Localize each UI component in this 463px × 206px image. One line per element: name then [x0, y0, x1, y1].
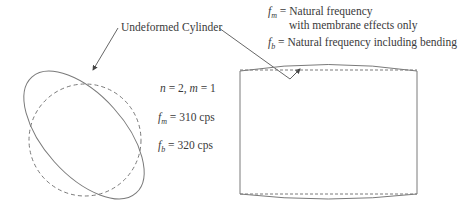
m-symbol: m — [190, 82, 198, 94]
undeformed-cross-section-circle — [29, 84, 141, 196]
subscript: b — [271, 42, 275, 51]
callout-leader-left — [93, 28, 118, 70]
separator: , — [184, 82, 187, 94]
mode-numbers-label: n = 2, m = 1 — [160, 83, 216, 95]
membrane-frequency-value: fm = 310 cps — [158, 112, 215, 124]
frequency-value: 320 cps — [177, 139, 212, 151]
deformed-longitudinal-outline — [240, 65, 417, 200]
subscript: b — [161, 145, 165, 154]
frequency-value: 310 cps — [179, 111, 214, 123]
legend-text: Natural frequency including bending — [287, 36, 457, 48]
legend-membrane: fm = Natural frequency — [268, 6, 373, 18]
undeformed-cylinder-label: Undeformed Cylinder — [121, 22, 222, 34]
bending-frequency-value: fb = 320 cps — [158, 140, 213, 152]
subscript: m — [271, 11, 277, 20]
legend-bending: fb = Natural frequency including bending — [268, 37, 457, 49]
equals-sign: = — [168, 139, 175, 151]
n-symbol: n — [160, 82, 166, 94]
equals-sign: = — [280, 5, 287, 17]
deformed-cross-section-ellipse — [2, 50, 166, 206]
equals-sign: = — [170, 111, 177, 123]
equals-sign: = — [278, 36, 285, 48]
subscript: m — [161, 117, 167, 126]
legend-text: Natural frequency — [289, 5, 372, 17]
equals-sign: = — [201, 82, 208, 94]
legend-membrane-line2: with membrane effects only — [289, 20, 417, 32]
equals-sign: = — [169, 82, 176, 94]
m-value: 1 — [210, 82, 216, 94]
